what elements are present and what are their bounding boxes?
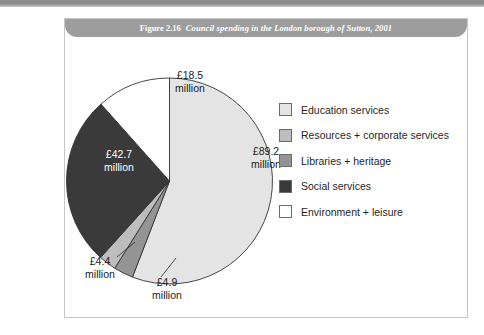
legend-item-label: Libraries + heritage xyxy=(301,155,391,167)
pie-slice-value: £4.4 xyxy=(90,255,111,267)
legend-item[interactable]: Education services xyxy=(279,103,449,116)
pie-slice-unit: million xyxy=(251,158,281,170)
chart-legend: Education servicesResources + corporate … xyxy=(279,103,449,218)
figure-number: Figure 2.16 xyxy=(140,23,181,33)
legend-item-label: Education services xyxy=(301,104,389,116)
legend-item-label: Resources + corporate services xyxy=(301,129,449,141)
legend-item-label: Environment + leisure xyxy=(301,206,403,218)
legend-item[interactable]: Libraries + heritage xyxy=(279,154,449,167)
pie-slice-unit: million xyxy=(85,268,115,280)
pie-slice-value: £4.9 xyxy=(157,276,178,288)
legend-item[interactable]: Social services xyxy=(279,180,449,193)
legend-swatch xyxy=(279,129,292,142)
pie-chart-area: £89.2million£4.9million£4.4million£42.7m… xyxy=(65,37,467,317)
legend-swatch xyxy=(279,154,292,167)
pie-slice-value: £89.2 xyxy=(253,145,279,157)
pie-slices-group xyxy=(66,78,272,284)
pie-slice-unit: million xyxy=(152,289,182,301)
legend-item-label: Social services xyxy=(301,180,371,192)
page-top-rule xyxy=(0,0,484,7)
pie-slice-value: £18.5 xyxy=(177,69,203,81)
pie-slice-label: £18.5million xyxy=(175,69,205,94)
pie-slice-label: £42.7million xyxy=(104,148,134,173)
legend-item[interactable]: Environment + leisure xyxy=(279,205,449,218)
figure-title: Council spending in the London borough o… xyxy=(186,23,392,33)
legend-swatch xyxy=(279,103,292,116)
pie-slice-value: £42.7 xyxy=(106,148,132,160)
pie-slice-label: £89.2million xyxy=(251,145,281,170)
legend-item[interactable]: Resources + corporate services xyxy=(279,129,449,142)
legend-swatch xyxy=(279,205,292,218)
legend-swatch xyxy=(279,180,292,193)
pie-slice-unit: million xyxy=(104,161,134,173)
figure-frame: Figure 2.16 Council spending in the Lond… xyxy=(64,18,468,318)
pie-slice-unit: million xyxy=(175,82,205,94)
figure-title-bar: Figure 2.16 Council spending in the Lond… xyxy=(65,19,467,37)
